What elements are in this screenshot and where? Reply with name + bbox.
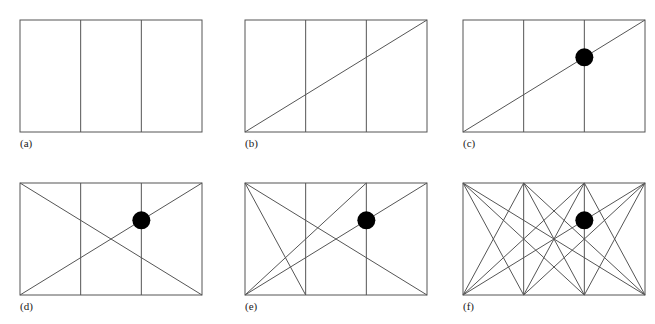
figure-canvas: (a)(b)(c)(d)(e)(f) [0, 0, 655, 324]
panel-d-caption: (d) [20, 300, 33, 313]
panel-b-caption: (b) [245, 137, 258, 150]
panel-b-chord-1 [245, 20, 427, 132]
panel-d-marker-dot [132, 211, 150, 229]
panel-d: (d) [20, 183, 202, 313]
panel-e-chord-3 [245, 183, 306, 295]
panel-c-marker-dot [575, 48, 593, 66]
panel-c: (c) [463, 20, 645, 150]
panel-c-caption: (c) [463, 137, 476, 150]
panel-e-marker-dot [357, 211, 375, 229]
panel-a: (a) [20, 20, 202, 150]
panel-e: (e) [245, 183, 427, 313]
panel-f-caption: (f) [463, 300, 474, 313]
panel-e-caption: (e) [245, 300, 258, 313]
panel-c-chord-1 [463, 20, 645, 132]
panel-b: (b) [245, 20, 427, 150]
panel-a-rectangle [20, 20, 202, 132]
panel-f: (f) [463, 183, 645, 313]
panel-a-caption: (a) [20, 137, 33, 150]
panel-f-marker-dot [575, 211, 593, 229]
